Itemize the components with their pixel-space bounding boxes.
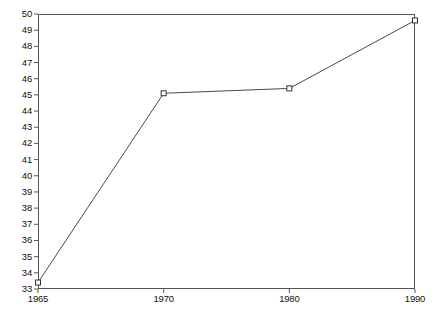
chart-graphics-layer (0, 0, 435, 313)
x-axis-tick-marks (38, 289, 415, 293)
line-chart: 504948474645444342414039383736353433 196… (0, 0, 435, 313)
data-series-line (38, 20, 415, 282)
data-point-markers (36, 18, 418, 285)
y-axis-tick-marks (34, 14, 38, 289)
data-point-marker (287, 86, 292, 91)
data-point-marker (413, 18, 418, 23)
data-point-marker (36, 280, 41, 285)
data-point-marker (161, 91, 166, 96)
